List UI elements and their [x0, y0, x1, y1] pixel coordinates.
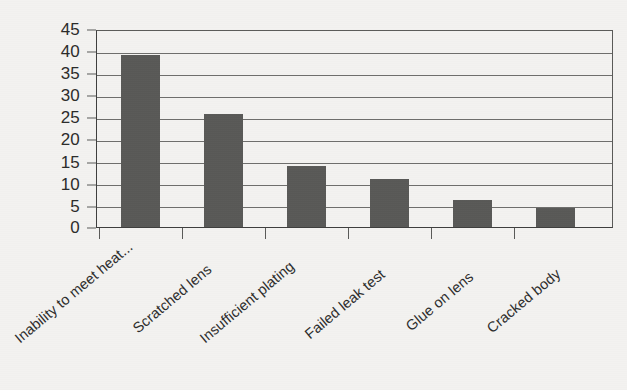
x-axis-labels: Inability to meet heat... Scratched lens… [0, 0, 627, 390]
x-tick-label-0: Inability to meet heat... [12, 238, 136, 346]
x-tick-label-3: Failed leak test [302, 266, 388, 342]
bar-chart: 45 40 35 30 25 20 15 10 5 0 [0, 0, 627, 390]
x-tick-label-5: Cracked body [484, 265, 564, 336]
x-tick-label-1: Scratched lens [130, 261, 215, 336]
x-tick-label-4: Glue on lens [403, 269, 477, 334]
